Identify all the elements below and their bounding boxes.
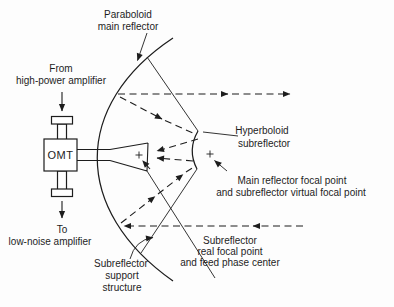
label-sub-focal-line2: real focal point (197, 246, 262, 257)
label-to-line2: low-noise amplifier (9, 236, 92, 247)
feed-focal-point-cross (136, 152, 143, 159)
waveguide-flange-top (52, 117, 73, 125)
ray-bottom-to-subreflector-3 (186, 167, 194, 172)
waveguide-stem-top (58, 124, 67, 140)
paraboloid-leader-arrow (138, 33, 148, 61)
main-focal-leader-arrow (215, 161, 228, 172)
subreflector-curve (192, 131, 198, 169)
support-line-bottom (141, 169, 197, 253)
label-support-line1: Subreflector (94, 258, 149, 269)
ray-paths (118, 94, 303, 226)
label-main-focal-line2: and subreflector virtual focal point (216, 187, 366, 198)
horn-flare (110, 143, 148, 171)
label-sub-focal-line3: and feed phase center (180, 257, 280, 268)
ray-top-to-subreflector (120, 97, 162, 119)
label-leaders (130, 33, 238, 259)
main-reflector-curve (97, 38, 173, 281)
label-support-line2: support (105, 270, 139, 281)
ray-top-to-subreflector-2 (165, 121, 195, 135)
waveguide-stem-bottom (58, 171, 67, 190)
diagram-canvas: Paraboloid main reflector From high-powe… (0, 0, 394, 307)
label-from-line1: From (49, 63, 72, 74)
waveguide-flange-bottom (52, 189, 73, 197)
label-main-focal-line1: Main reflector focal point (238, 175, 347, 186)
ray-bottom-to-subreflector-2 (158, 175, 183, 195)
ray-bottom-to-subreflector-1 (121, 197, 155, 224)
label-omt: OMT (48, 149, 74, 161)
hyperboloid-leader-line (203, 132, 238, 136)
label-paraboloid-line1: Paraboloid (104, 9, 152, 20)
label-hyperboloid-line2: subreflector (238, 138, 291, 149)
text-labels: Paraboloid main reflector From high-powe… (9, 9, 366, 293)
ray-subreflector-to-feed-2 (157, 158, 193, 161)
ray-into-feed-phase-center (143, 161, 151, 170)
label-hyperboloid-line1: Hyperboloid (235, 125, 288, 136)
cassegrain-antenna-diagram: Paraboloid main reflector From high-powe… (0, 0, 394, 307)
label-from-line2: high-power amplifier (16, 75, 107, 86)
feed-horn (77, 143, 148, 171)
label-paraboloid-line2: main reflector (98, 21, 159, 32)
virtual-focal-point-cross (207, 151, 214, 158)
label-support-line3: structure (103, 282, 142, 293)
label-to-line1: To (57, 224, 68, 235)
label-sub-focal-line1: Subreflector (203, 235, 258, 246)
